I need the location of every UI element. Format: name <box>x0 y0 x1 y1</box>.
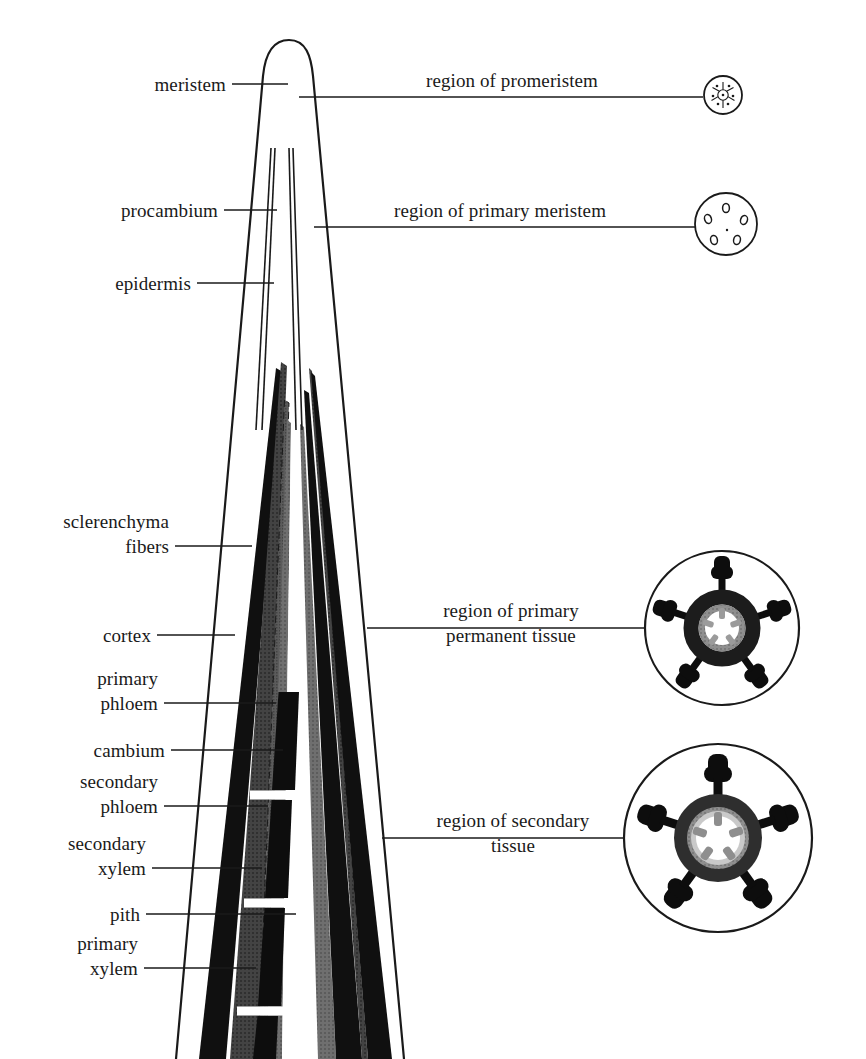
label-secondary-xylem: secondary xylem <box>0 831 146 881</box>
label-region-primary-permanent-tissue: region of primary permanent tissue <box>392 598 630 648</box>
label-procambium: procambium <box>0 198 218 223</box>
label-sclerenchyma-fibers: sclerenchyma fibers <box>0 509 169 559</box>
label-region-promeristem: region of promeristem <box>366 68 658 93</box>
label-pith: pith <box>0 902 140 927</box>
label-secondary-phloem: secondary phloem <box>0 769 158 819</box>
primary-meristem-cross-section <box>695 193 757 255</box>
stem-anatomy-diagram: meristem procambium epidermis sclerenchy… <box>0 0 866 1059</box>
label-primary-xylem: primary xylem <box>0 931 138 981</box>
primary-permanent-cross-section <box>645 551 799 705</box>
label-cortex: cortex <box>0 623 151 648</box>
secondary-cross-section <box>624 744 812 932</box>
promeristem-cross-section <box>704 76 742 114</box>
label-region-secondary-tissue: region of secondary tissue <box>400 808 626 858</box>
label-region-primary-meristem: region of primary meristem <box>328 198 672 223</box>
label-cambium: cambium <box>0 738 165 763</box>
label-primary-phloem: primary phloem <box>0 666 158 716</box>
label-epidermis: epidermis <box>0 271 191 296</box>
label-meristem: meristem <box>0 72 226 97</box>
